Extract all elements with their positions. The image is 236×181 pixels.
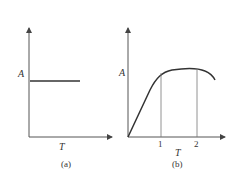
panel-a: A T (a) xyxy=(17,28,112,169)
caption-a: (a) xyxy=(61,159,71,169)
y-axis-label: A xyxy=(17,68,25,79)
figure: A T (a) 1 2 A T (b) xyxy=(0,0,236,181)
x-axis-label: T xyxy=(59,141,66,152)
y-axis-label: A xyxy=(118,67,126,78)
caption-b: (b) xyxy=(172,159,183,169)
panel-b: 1 2 A T (b) xyxy=(118,28,225,169)
tick-label-2: 2 xyxy=(194,139,199,149)
tick-label-1: 1 xyxy=(158,139,163,149)
x-axis-label: T xyxy=(175,147,182,158)
response-curve xyxy=(128,69,215,137)
